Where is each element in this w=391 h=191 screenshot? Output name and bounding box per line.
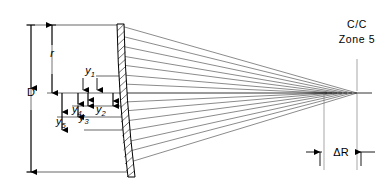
label-zone5: Zone 5	[339, 33, 375, 45]
dimension-D	[27, 25, 35, 172]
dimension-r	[48, 25, 56, 93]
ray-bundle-lower	[124, 93, 357, 163]
ray	[124, 93, 332, 111]
label-cc: C/C	[347, 18, 367, 30]
label-y1: y1	[84, 64, 95, 79]
ray-trace-figure: D r y5 y4 y3	[0, 0, 391, 191]
ray	[123, 75, 332, 93]
ray	[125, 93, 342, 131]
label-delta-r: ΔR	[333, 146, 348, 158]
label-r: r	[50, 47, 55, 59]
label-y2: y2	[95, 103, 107, 118]
label-y3: y3	[78, 111, 90, 126]
ray	[121, 26, 357, 93]
ray	[121, 36, 352, 93]
ray	[124, 93, 327, 102]
dimension-y1	[83, 78, 97, 90]
ray	[127, 93, 357, 163]
ray	[126, 93, 352, 152]
label-D: D	[27, 86, 35, 98]
ray-bundle-upper	[121, 26, 357, 93]
ray	[122, 56, 342, 93]
diagram-canvas: D r y5 y4 y3	[0, 0, 391, 191]
